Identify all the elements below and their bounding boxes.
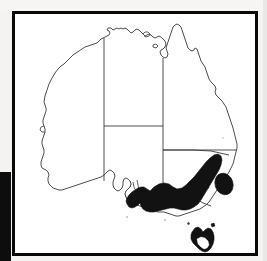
australia-distribution-map xyxy=(15,14,255,253)
map-canvas: Australia xyxy=(15,14,255,253)
scan-speck xyxy=(222,137,223,138)
scan-speck xyxy=(126,216,128,218)
map-frame: Australia xyxy=(12,11,258,256)
scan-speck xyxy=(164,219,166,221)
scan-artifact-right-band xyxy=(263,0,267,261)
bass-strait-island-path xyxy=(211,223,215,227)
scan-edge-top xyxy=(0,0,267,11)
scan-artifact-left-band xyxy=(0,172,11,261)
king-island-speck-path xyxy=(187,222,190,225)
scanned-page: Australia xyxy=(0,0,267,261)
